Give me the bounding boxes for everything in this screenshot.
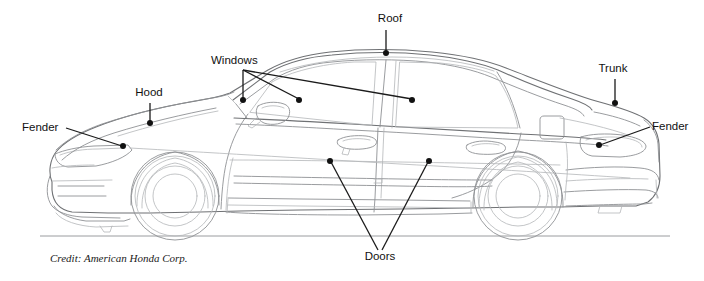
leader-fender-rear <box>600 127 650 145</box>
a-pillar <box>236 104 247 118</box>
leader-dot-roof <box>383 50 389 56</box>
front-bumper-crease <box>52 180 112 181</box>
label-roof: Roof <box>378 12 403 24</box>
label-doors: Doors <box>365 250 396 262</box>
cowl-line <box>228 96 236 104</box>
credit-line: Credit: American Honda Corp. <box>50 252 188 264</box>
front-fender-shutline <box>221 114 248 209</box>
rear-bumper-edge <box>656 180 657 198</box>
label-windows: Windows <box>211 54 258 66</box>
label-fender-front: Fender <box>22 121 59 133</box>
callout-hood[interactable]: Hood <box>135 86 163 126</box>
rocker-panel-lower <box>226 212 472 215</box>
rocker-panel-upper <box>228 198 470 201</box>
side-feature-line <box>130 148 630 178</box>
rear-door-handle <box>466 141 505 154</box>
car-silhouette <box>50 50 660 213</box>
leader-dot-windows-2 <box>296 97 302 103</box>
rear-bumper-lower <box>564 190 658 198</box>
callout-fender-front[interactable]: Fender <box>22 121 126 149</box>
leader-dot-fender-front <box>120 143 126 149</box>
front-wheel <box>131 152 219 240</box>
front-door-window <box>250 62 376 125</box>
label-trunk: Trunk <box>599 62 628 74</box>
rear-wheel <box>474 152 562 240</box>
side-molding-upper <box>234 176 492 180</box>
label-hood: Hood <box>135 86 163 98</box>
leader-dot-doors-2 <box>426 158 432 164</box>
leader-dot-fender-rear <box>596 142 602 148</box>
leader-windows-3 <box>243 70 412 99</box>
side-molding-lower <box>234 183 492 187</box>
hood-crease-upper <box>56 92 234 150</box>
side-molding-detail <box>374 179 382 183</box>
front-wheel-arch <box>131 152 219 205</box>
leader-dot-hood <box>147 120 153 126</box>
rear-bumper-crease <box>566 179 648 181</box>
rear-diffuser <box>598 206 622 213</box>
leader-dot-trunk <box>612 100 618 106</box>
front-door-handle <box>337 136 376 155</box>
rear-door-window <box>396 62 518 128</box>
b-pillar-inner <box>392 61 396 128</box>
front-fender-shutline2 <box>226 158 233 210</box>
front-wheel-arch-inner2 <box>142 163 208 208</box>
rocker-step <box>228 205 470 208</box>
leader-dot-windows-1 <box>240 97 246 103</box>
front-air-dam <box>56 213 128 227</box>
trunk-lid-shutline <box>594 112 640 126</box>
rear-quarter-shutline <box>565 142 568 200</box>
rear-bumper-upper <box>566 167 659 180</box>
label-fender-rear: Fender <box>652 120 689 132</box>
rear-wheel-arch-inner2 <box>484 162 552 210</box>
car-parts-diagram: Roof Windows Hood Trunk Fend <box>0 0 704 281</box>
car-diagram-svg: Roof Windows Hood Trunk Fend <box>0 0 704 281</box>
leader-dot-doors-1 <box>327 158 333 164</box>
front-bumper <box>47 176 120 218</box>
leader-doors-2 <box>382 162 428 250</box>
callout-trunk[interactable]: Trunk <box>599 62 628 106</box>
rear-wheel-arch <box>473 151 563 207</box>
trunk-lid-crease <box>560 118 628 135</box>
taillight <box>580 134 646 157</box>
beltline <box>234 118 606 140</box>
leader-dot-windows-3 <box>409 97 415 103</box>
